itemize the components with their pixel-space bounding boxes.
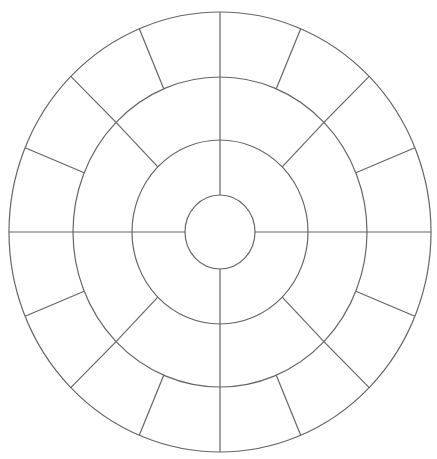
middle-band-divider xyxy=(282,297,324,342)
middle-band-divider xyxy=(116,122,158,167)
outer-band-divider xyxy=(139,29,163,89)
outer-band-divider xyxy=(139,375,163,435)
outer-band-divider xyxy=(71,76,116,122)
outer-band-divider xyxy=(324,76,369,122)
outer-band-divider xyxy=(276,29,300,89)
outer-band-divider xyxy=(25,291,84,316)
middle-band-divider xyxy=(282,122,324,167)
outer-band-divider xyxy=(71,342,116,388)
outer-band-divider xyxy=(25,148,84,173)
outer-band-divider xyxy=(356,148,415,173)
outer-band-divider xyxy=(276,375,300,435)
outer-band-divider xyxy=(356,291,415,316)
center-circle xyxy=(185,195,255,269)
segmented-wheel-diagram xyxy=(0,0,437,459)
outer-band-divider xyxy=(324,342,369,388)
spokes xyxy=(9,12,431,452)
middle-band-divider xyxy=(116,297,158,342)
